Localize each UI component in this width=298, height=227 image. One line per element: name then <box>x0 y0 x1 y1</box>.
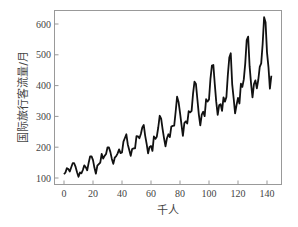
y-tick-label: 400 <box>36 80 51 91</box>
x-tick-label: 20 <box>88 188 98 199</box>
x-tick-label: 100 <box>202 188 217 199</box>
y-tick-label: 300 <box>36 111 51 122</box>
line-chart: 100200300400500600 020406080100120140 千人… <box>0 0 298 227</box>
x-tick-label: 140 <box>260 188 275 199</box>
y-tick-label: 100 <box>36 173 51 184</box>
y-tick-label: 500 <box>36 49 51 60</box>
y-axis: 100200300400500600 <box>36 19 59 184</box>
x-tick-label: 80 <box>175 188 185 199</box>
data-series-line <box>64 17 271 177</box>
y-axis-label: 国际旅行客流量/月 <box>16 51 30 143</box>
y-tick-label: 600 <box>36 19 51 30</box>
x-axis-label: 千人 <box>157 204 179 217</box>
x-tick-label: 0 <box>62 188 67 199</box>
x-tick-label: 40 <box>117 188 127 199</box>
x-axis: 020406080100120140 <box>62 181 275 200</box>
x-tick-label: 60 <box>146 188 156 199</box>
y-tick-label: 200 <box>36 142 51 153</box>
x-tick-label: 120 <box>231 188 246 199</box>
